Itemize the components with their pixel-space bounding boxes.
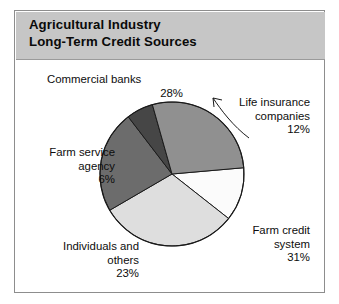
pie-label-farm-service-line-2: agency [78,160,115,172]
pie-label-life-insurance-line-2: companies [255,110,310,122]
pie-label-farm-service-percent: 6% [19,173,115,187]
chart-title-line-2: Long-Term Credit Sources [29,34,197,51]
pie-label-commercial-banks: Commercial banks 28% [47,73,183,100]
pie-label-individuals-line-1: Individuals and [63,240,139,252]
pie-label-commercial-banks-percent: 28% [47,87,183,101]
pie-label-farm-service-agency: Farm service agency 6% [19,146,115,187]
pie-label-commercial-banks-text: Commercial banks [47,73,183,87]
pie-label-life-insurance-percent: 12% [200,123,310,137]
chart-title: Agricultural Industry Long-Term Credit S… [29,17,197,50]
pie-label-farm-credit-line-2: system [274,238,310,250]
pie-label-farm-credit-line-1: Farm credit [252,224,310,236]
chart-title-line-1: Agricultural Industry [29,17,197,34]
pie-chart-plot-area: Commercial banks 28% Life insurance comp… [15,60,324,292]
chart-figure: Agricultural Industry Long-Term Credit S… [14,10,325,293]
pie-label-farm-service-line-1: Farm service [49,146,115,158]
pie-label-individuals-line-2: others [107,254,139,266]
pie-label-individuals-and-others: Individuals and others 23% [21,240,139,281]
pie-label-individuals-percent: 23% [21,267,139,281]
pie-label-farm-credit-percent: 31% [200,251,310,265]
pie-label-life-insurance-line-1: Life insurance [239,96,310,108]
pie-label-farm-credit-system: Farm credit system 31% [200,224,310,265]
pie-label-life-insurance-companies: Life insurance companies 12% [200,96,310,137]
